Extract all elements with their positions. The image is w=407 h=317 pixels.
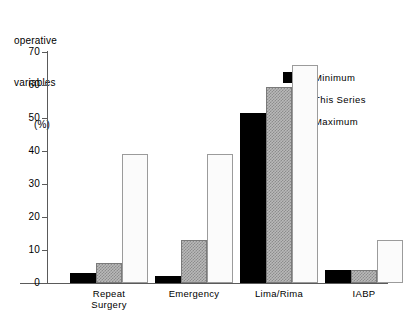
y-axis-tick	[42, 283, 48, 284]
y-axis-tick-label: 60	[14, 80, 40, 90]
bar	[122, 154, 148, 283]
bar	[325, 270, 351, 283]
x-axis-tick-label: Emergency	[149, 288, 239, 299]
x-axis-line	[20, 283, 388, 284]
bar-group	[70, 52, 148, 283]
x-axis-tick-label: Lima/Rima	[234, 288, 324, 299]
bar	[70, 273, 96, 283]
y-axis-tick-label: 70	[14, 47, 40, 57]
bar	[96, 263, 122, 283]
y-axis-tick-label: 40	[14, 146, 40, 156]
bar	[155, 276, 181, 283]
y-axis-tick-label: 10	[14, 245, 40, 255]
y-axis-tick-label: 30	[14, 179, 40, 189]
bar-group	[155, 52, 233, 283]
x-axis-tick-label: Repeat Surgery	[64, 288, 154, 310]
bar	[266, 87, 292, 283]
y-axis-tick-label: 20	[14, 212, 40, 222]
legend-label: Minimum	[314, 72, 355, 83]
x-axis-tick-label: IABP	[319, 288, 407, 299]
bar	[207, 154, 233, 283]
y-axis-tick-label: 0	[14, 278, 40, 288]
bar	[351, 270, 377, 283]
y-axis-tick-labels: 010203040506070	[8, 0, 40, 317]
y-axis-tick-label: 50	[14, 113, 40, 123]
bar	[181, 240, 207, 283]
bar	[292, 65, 318, 283]
legend-label: Maximum	[314, 116, 358, 127]
bar-group	[240, 52, 318, 283]
bar	[377, 240, 403, 283]
bar	[240, 113, 266, 283]
legend-label: This Series	[314, 94, 366, 105]
